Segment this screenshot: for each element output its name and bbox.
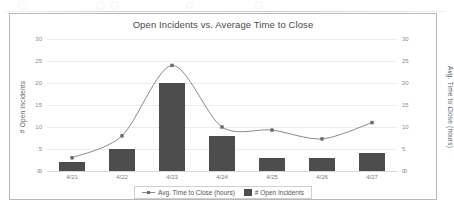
x-axis-right-zero: 0 (404, 168, 407, 174)
y-tick-right: 30 (402, 36, 409, 42)
y-tick-left: 20 (35, 80, 42, 86)
y-axis-left-title: # Open Incidents (19, 80, 26, 132)
line-marker-icon (142, 190, 155, 195)
y-axis-ticks: 005510101515202025253030 (47, 39, 397, 171)
background-artifacts (0, 0, 449, 13)
x-tick: 4/24 (216, 174, 228, 180)
legend-item-open-incidents[interactable]: # Open Incidents (244, 189, 304, 196)
y-tick-left: 5 (39, 146, 42, 152)
x-axis-left-zero: 0 (37, 168, 40, 174)
y-axis-right-title: Avg. Time to Close (hours) (447, 65, 454, 147)
y-tick-left: 25 (35, 58, 42, 64)
x-tick: 4/23 (166, 174, 178, 180)
y-tick-right: 20 (402, 80, 409, 86)
legend-label-open-incidents: # Open Incidents (255, 189, 304, 196)
y-tick-right: 25 (402, 58, 409, 64)
x-tick: 4/25 (266, 174, 278, 180)
legend-label-avg-time: Avg. Time to Close (hours) (158, 189, 235, 196)
y-tick-left: 30 (35, 36, 42, 42)
x-tick: 4/27 (366, 174, 378, 180)
x-tick: 4/22 (116, 174, 128, 180)
gridline (47, 171, 397, 172)
x-tick: 4/21 (66, 174, 78, 180)
y-tick-left: 15 (35, 102, 42, 108)
chart-title: Open Incidents vs. Average Time to Close (10, 19, 436, 30)
y-tick-right: 15 (402, 102, 409, 108)
chart-legend[interactable]: Avg. Time to Close (hours) # Open Incide… (134, 186, 312, 199)
y-tick-right: 5 (402, 146, 405, 152)
x-tick: 4/26 (316, 174, 328, 180)
y-tick-left: 10 (35, 124, 42, 130)
bar-swatch-icon (244, 189, 252, 196)
plot-area: 005510101515202025253030 (47, 39, 397, 171)
y-tick-right: 10 (402, 124, 409, 130)
legend-item-avg-time[interactable]: Avg. Time to Close (hours) (142, 189, 235, 196)
chart-panel: Open Incidents vs. Average Time to Close… (9, 13, 437, 200)
x-axis-ticks: 0 0 4/214/224/234/244/254/264/27 (47, 174, 397, 186)
